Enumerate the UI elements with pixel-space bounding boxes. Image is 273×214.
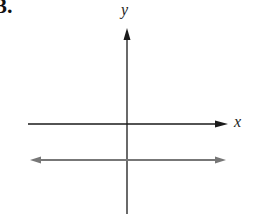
right-arrowhead-icon bbox=[215, 157, 226, 164]
x-axis bbox=[28, 121, 228, 128]
x-axis-arrowhead-icon bbox=[215, 121, 228, 128]
horizontal-line bbox=[30, 157, 226, 164]
coordinate-plane bbox=[0, 0, 273, 214]
left-arrowhead-icon bbox=[30, 157, 41, 164]
y-axis bbox=[124, 28, 131, 214]
y-axis-arrowhead-icon bbox=[124, 28, 131, 40]
